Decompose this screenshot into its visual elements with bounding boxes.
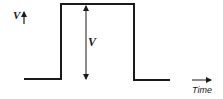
amplitude-label: V [88, 35, 97, 49]
pulse-diagram: V V Time [0, 0, 223, 99]
pulse-waveform [24, 4, 170, 80]
x-axis-label: Time [192, 85, 212, 95]
y-axis-label: V [13, 9, 22, 21]
